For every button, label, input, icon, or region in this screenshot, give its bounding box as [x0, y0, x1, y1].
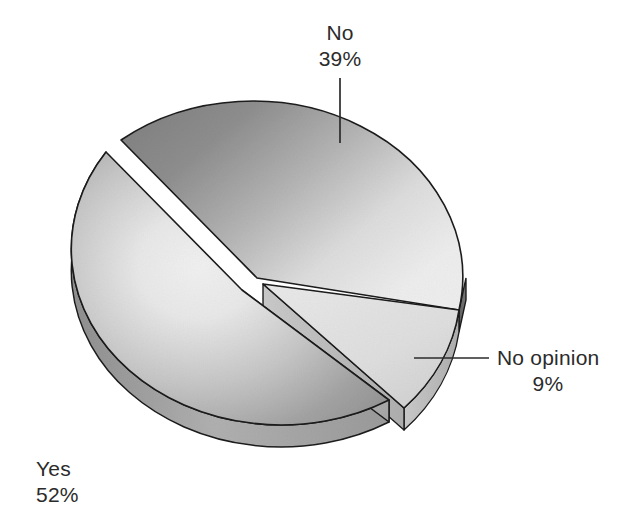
slice-label-no-opinion: No opinion 9%: [497, 345, 621, 397]
slice-label-no: No 39%: [305, 20, 375, 72]
slice-label-yes: Yes 52%: [36, 456, 116, 508]
slice-label-no-opinion-value: 9%: [497, 371, 621, 397]
slice-label-yes-name: Yes: [36, 456, 116, 482]
pie-chart: No 39% No opinion 9% Yes 52%: [0, 0, 627, 530]
slice-label-no-value: 39%: [305, 46, 375, 72]
slice-label-no-name: No: [305, 20, 375, 46]
slice-label-no-opinion-name: No opinion: [497, 345, 621, 371]
pie-chart-graphic: [0, 0, 627, 530]
slice-label-yes-value: 52%: [36, 482, 116, 508]
